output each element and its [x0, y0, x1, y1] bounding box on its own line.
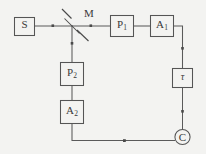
component-box-group	[15, 16, 193, 145]
analyzer1-label: A1	[150, 19, 174, 30]
analyzer2-label: A2	[60, 105, 84, 116]
wire-analyzer2-to-coincidence	[72, 124, 175, 141]
direction-marker-vertical-down	[71, 42, 74, 45]
mirror-label: M	[84, 8, 94, 19]
diagram-canvas: S M P1 A1 τ C P2 A2	[0, 0, 206, 154]
direction-marker-source-beam	[52, 24, 55, 27]
beam-splitter-hatch-lower-icon	[77, 30, 89, 41]
direction-marker-delay-to-counter	[181, 110, 184, 113]
direction-marker-right-vertical	[181, 47, 184, 50]
source-label: S	[14, 19, 35, 30]
polarizer1-label: P1	[110, 19, 134, 30]
polarizer2-label: P2	[60, 67, 84, 78]
beam-path-group	[35, 26, 183, 141]
direction-marker-bottom-wire	[123, 139, 126, 142]
direction-marker-mirror-out	[90, 24, 93, 27]
coincidence-label: C	[175, 132, 190, 143]
delay-label: τ	[172, 72, 193, 82]
beam-splitter-hatch-upper-icon	[62, 9, 72, 19]
